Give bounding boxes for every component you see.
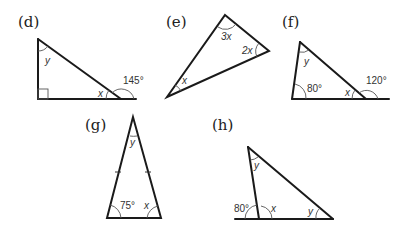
figure-e: (e) 3x 2x x [166,13,269,97]
angle-y: y [44,55,51,66]
triangle-diagrams: (d) y x 145° (e) 3x 2x x (f) y 80° x 120… [0,0,412,236]
angle-145: 145° [123,75,144,86]
angle-2x: 2x [241,45,254,56]
figure-f-label: (f) [282,13,299,31]
angle-80: 80° [234,203,249,214]
angle-x: x [270,203,277,214]
right-angle-marker [38,89,48,99]
angle-120: 120° [366,75,387,86]
angle-x: x [97,88,104,99]
figure-g: (g) y 75° x [85,116,161,218]
figure-h: (h) y 80° x y [212,116,333,219]
angle-75: 75° [120,200,135,211]
figure-e-label: (e) [166,13,187,31]
figure-f: (f) y 80° x 120° [282,13,389,99]
angle-y: y [129,137,136,148]
figure-g-label: (g) [85,116,106,134]
figure-h-label: (h) [212,116,233,134]
angle-y-top: y [253,160,260,171]
angle-80: 80° [307,83,322,94]
figure-d-label: (d) [18,13,39,31]
angle-y-right: y [307,206,314,217]
angle-x: x [181,75,188,86]
angle-x: x [143,200,150,211]
figure-d: (d) y x 145° [18,13,144,99]
angle-y: y [303,56,310,67]
angle-3x: 3x [221,31,233,42]
angle-x: x [344,87,351,98]
